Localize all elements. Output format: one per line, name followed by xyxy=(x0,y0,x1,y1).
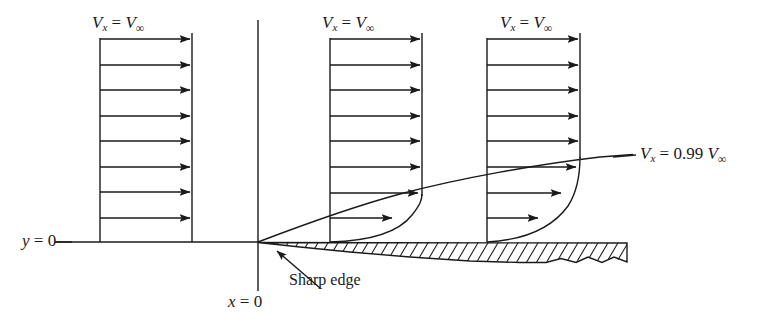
boundary-layer-figure: Vx = V∞ Vx = V∞ Vx = V∞ y = 0 x = 0 Shar… xyxy=(0,0,762,331)
label-y-equals-zero: y = 0 xyxy=(22,232,56,249)
label-freestream-velocity-station-1: Vx = V∞ xyxy=(92,14,144,34)
x-value: 0 xyxy=(254,292,263,311)
x-equals: = xyxy=(236,292,254,311)
label-x-equals-zero: x = 0 xyxy=(228,293,262,310)
figure-canvas xyxy=(0,0,762,331)
profile-3-equals: = xyxy=(515,13,533,32)
x-symbol: x xyxy=(228,292,236,311)
profile-1-V: V xyxy=(92,13,102,32)
v099-V2: V xyxy=(707,144,717,163)
y-symbol: y xyxy=(22,231,30,250)
v099-subscript-infinity: ∞ xyxy=(718,152,727,166)
label-freestream-velocity-station-3: Vx = V∞ xyxy=(500,14,552,34)
profile-3-V2: V xyxy=(533,13,543,32)
v099-equals: = xyxy=(655,144,673,163)
label-sharp-edge: Sharp edge xyxy=(289,272,361,288)
profile-2-equals: = xyxy=(337,13,355,32)
velocity-profile-station-3 xyxy=(487,33,580,242)
profile-3-boundary-curve xyxy=(487,157,580,242)
profile-1-subscript-infinity: ∞ xyxy=(136,21,145,35)
y-value: 0 xyxy=(48,231,57,250)
velocity-profile-station-1 xyxy=(100,33,192,242)
profile-2-subscript-infinity: ∞ xyxy=(366,21,375,35)
label-freestream-velocity-station-2: Vx = V∞ xyxy=(322,14,374,34)
profile-2-V2: V xyxy=(355,13,365,32)
profile-1-V2: V xyxy=(125,13,135,32)
profile-1-arrows xyxy=(100,39,190,218)
v099-coefficient: 0.99 xyxy=(673,144,707,163)
flat-plate xyxy=(252,236,642,270)
profile-2-V: V xyxy=(322,13,332,32)
boundary-layer-curve xyxy=(258,155,633,243)
v099-V: V xyxy=(640,144,650,163)
profile-2-arrows xyxy=(330,39,420,218)
profile-1-equals: = xyxy=(107,13,125,32)
profile-3-V: V xyxy=(500,13,510,32)
profile-3-arrows xyxy=(487,39,578,218)
label-boundary-layer-edge-velocity: Vx = 0.99 V∞ xyxy=(640,145,726,165)
y-equals: = xyxy=(30,231,48,250)
profile-3-subscript-infinity: ∞ xyxy=(544,21,553,35)
